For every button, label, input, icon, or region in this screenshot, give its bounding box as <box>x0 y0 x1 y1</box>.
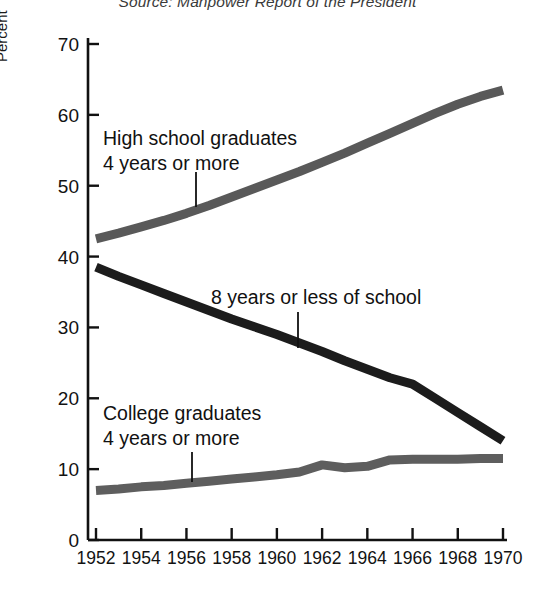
series-label-high-school-line2: 4 years or more <box>103 151 297 176</box>
y-axis-tick-label: 30 <box>58 317 79 338</box>
series-label-eight-years-or-less: 8 years or less of school <box>211 285 421 310</box>
series-label-college-graduates: College graduates 4 years or more <box>103 401 261 451</box>
x-axis-tick-label: 1964 <box>348 548 387 568</box>
series-label-college-line2: 4 years or more <box>103 426 261 451</box>
y-axis-tick-label: 50 <box>58 176 79 197</box>
x-axis-tick-label: 1954 <box>122 548 161 568</box>
y-axis-tick-label: 60 <box>58 105 79 126</box>
series-line-college-graduates <box>96 459 503 491</box>
y-axis-ticks: 010203040506070 <box>58 34 99 551</box>
x-axis-tick-label: 1956 <box>167 548 206 568</box>
series-label-eight-years-line1: 8 years or less of school <box>211 285 421 310</box>
x-axis-tick-label: 1962 <box>303 548 342 568</box>
chart-container: Source: Manpower Report of the President… <box>0 0 535 607</box>
x-axis-tick-label: 1970 <box>484 548 523 568</box>
y-axis-tick-label: 10 <box>58 459 79 480</box>
x-axis-tick-label: 1958 <box>212 548 251 568</box>
series-label-college-line1: College graduates <box>103 401 261 426</box>
y-axis-tick-label: 40 <box>58 247 79 268</box>
x-axis-tick-label: 1952 <box>77 548 116 568</box>
series-label-high-school-graduates: High school graduates 4 years or more <box>103 126 297 176</box>
y-axis-tick-label: 20 <box>58 388 79 409</box>
series-label-high-school-line1: High school graduates <box>103 126 297 151</box>
y-axis-tick-label: 70 <box>58 34 79 55</box>
x-axis-tick-label: 1960 <box>257 548 296 568</box>
x-axis-tick-label: 1968 <box>438 548 477 568</box>
x-axis-ticks: 1952195419561958196019621964196619681970 <box>77 528 523 568</box>
x-axis-tick-label: 1966 <box>393 548 432 568</box>
